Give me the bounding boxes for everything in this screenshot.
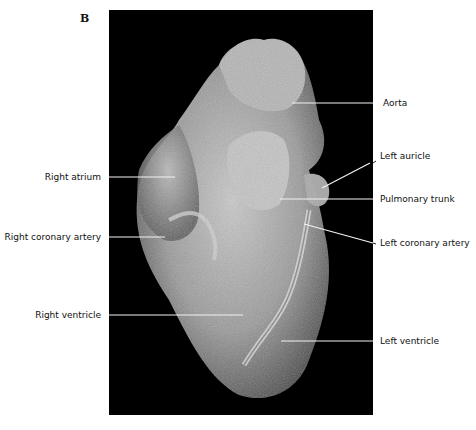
label-pulmonary-trunk: Pulmonary trunk — [380, 194, 455, 205]
label-left-auricle: Left auricle — [380, 151, 430, 162]
label-right-ventricle: Right ventricle — [35, 310, 101, 321]
label-left-coronary-artery: Left coronary artery — [380, 238, 470, 249]
heart-specimen-photo — [109, 10, 373, 415]
label-aorta: Aorta — [383, 98, 407, 109]
label-right-coronary-artery: Right coronary artery — [5, 232, 101, 243]
label-right-atrium: Right atrium — [45, 172, 101, 183]
panel-letter: B — [80, 12, 89, 25]
label-left-ventricle: Left ventricle — [380, 336, 439, 347]
